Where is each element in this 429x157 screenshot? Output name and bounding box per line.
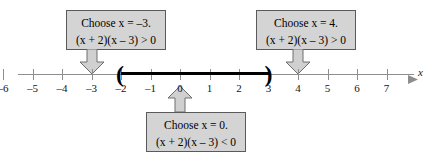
axis-tick [62,69,63,80]
axis-tick-label: 4 [286,82,310,94]
axis-tick [33,69,34,80]
solution-interval-bar [121,72,269,75]
callout-box-middle: Choose x = 0. (x + 2)(x – 3) < 0 [146,112,246,152]
axis-tick-label: 0 [168,82,192,94]
axis-tick-label: 7 [375,82,399,94]
axis-tick-label: –3 [80,82,104,94]
callout-right-line1: Choose x = 4. [257,15,355,32]
axis-tick [92,69,93,80]
axis-tick-label: –4 [50,82,74,94]
axis-tick-label: 2 [227,82,251,94]
callout-box-right: Choose x = 4. (x + 2)(x – 3) > 0 [256,10,356,50]
axis-tick [387,69,388,80]
callout-middle-line1: Choose x = 0. [147,117,245,134]
axis-tick-label: –6 [0,82,15,94]
axis-tick [3,69,4,80]
callout-middle-line2: (x + 2)(x – 3) < 0 [147,134,245,151]
axis-tick-label: –5 [21,82,45,94]
axis-tick [328,69,329,80]
interval-open-paren-right: ) [265,62,273,86]
axis-tick-label: 1 [198,82,222,94]
axis-tick-label: 6 [345,82,369,94]
callout-left-line1: Choose x = –3. [67,15,165,32]
callout-right-line2: (x + 2)(x – 3) > 0 [257,32,355,49]
callout-left-line2: (x + 2)(x – 3) > 0 [67,32,165,49]
callout-box-left: Choose x = –3. (x + 2)(x – 3) > 0 [66,10,166,50]
axis-tick [357,69,358,80]
interval-open-paren-left: ( [116,62,124,86]
axis-tick [298,69,299,80]
axis-tick-label: 5 [316,82,340,94]
number-line-figure: Choose x = –3. (x + 2)(x – 3) > 0 Choose… [0,0,429,157]
axis-tick-label: –1 [139,82,163,94]
axis-variable-label: x [418,66,423,78]
axis-arrowhead-icon [408,70,418,88]
